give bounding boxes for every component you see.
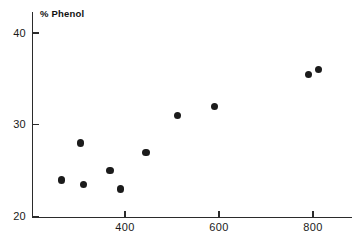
data-points-layer bbox=[0, 0, 363, 245]
data-point bbox=[305, 71, 313, 79]
data-point bbox=[106, 167, 114, 175]
data-point bbox=[80, 181, 88, 189]
data-point bbox=[315, 66, 323, 74]
data-point bbox=[77, 139, 85, 147]
data-point bbox=[117, 185, 125, 193]
data-point bbox=[174, 112, 182, 120]
scatter-chart-figure: % Phenol 203040 400600800 bbox=[0, 0, 363, 245]
data-point bbox=[58, 176, 66, 184]
data-point bbox=[142, 149, 150, 157]
data-point bbox=[211, 103, 219, 111]
